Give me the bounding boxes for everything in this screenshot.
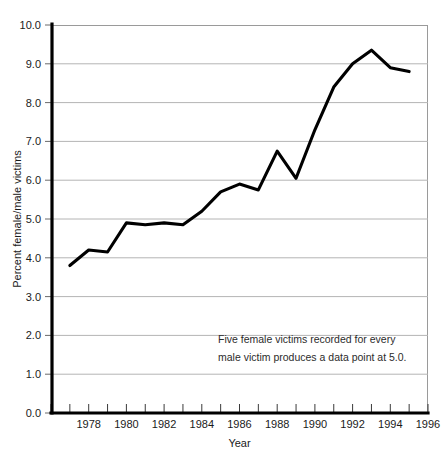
y-axis-title: Percent female/male victims (11, 150, 23, 288)
y-tick-label-2: 2.0 (26, 329, 41, 341)
y-tick-label-5: 5.0 (26, 213, 41, 225)
chart-background (0, 0, 446, 456)
annotation-line-2: male victim produces a data point at 5.0… (218, 351, 407, 363)
chart-canvas: 10.0 9.0 8.0 7.0 6.0 5.0 4.0 3.0 2.0 1.0… (0, 0, 446, 456)
x-tick-label-1978: 1978 (76, 418, 100, 430)
annotation-line-1: Five female victims recorded for every (218, 333, 396, 345)
line-chart-figure: 10.0 9.0 8.0 7.0 6.0 5.0 4.0 3.0 2.0 1.0… (0, 0, 446, 456)
y-tick-label-9: 9.0 (26, 58, 41, 70)
chart-screenshot: 10.0 9.0 8.0 7.0 6.0 5.0 4.0 3.0 2.0 1.0… (0, 0, 446, 456)
x-tick-label-1988: 1988 (265, 418, 289, 430)
y-tick-label-7: 7.0 (26, 135, 41, 147)
y-tick-label-6: 6.0 (26, 174, 41, 186)
x-axis-title: Year (228, 437, 251, 449)
y-tick-label-8: 8.0 (26, 97, 41, 109)
x-tick-label-1984: 1984 (190, 418, 214, 430)
y-tick-label-1: 1.0 (26, 368, 41, 380)
y-tick-label-3: 3.0 (26, 291, 41, 303)
y-tick-label-0: 0.0 (26, 407, 41, 419)
y-tick-label-10: 10.0 (20, 19, 41, 31)
x-tick-label-1996: 1996 (416, 418, 440, 430)
x-tick-label-1980: 1980 (114, 418, 138, 430)
x-tick-label-1994: 1994 (378, 418, 402, 430)
x-tick-label-1986: 1986 (227, 418, 251, 430)
x-tick-label-1982: 1982 (152, 418, 176, 430)
y-tick-label-4: 4.0 (26, 252, 41, 264)
x-tick-label-1992: 1992 (340, 418, 364, 430)
x-tick-label-1990: 1990 (303, 418, 327, 430)
